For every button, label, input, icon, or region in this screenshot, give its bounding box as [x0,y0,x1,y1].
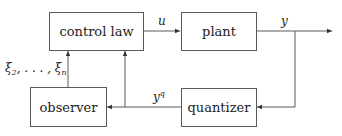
xi-signal-label: ξ2, . . . , ξn [5,62,67,77]
u-signal-label: u [158,15,166,27]
yq-superscript: q [160,89,165,98]
observer-label: observer [40,100,98,115]
block-diagram: control law plant observer quantizer u y… [0,0,342,136]
u-text: u [158,14,166,28]
xi-sub-end: n [61,68,66,77]
yq-base-text: y [153,90,160,104]
y-signal-label: y [281,15,288,27]
control-law-block: control law [49,12,144,51]
observer-block: observer [30,87,107,127]
y-text: y [281,14,288,28]
yq-signal-label: yq [153,90,165,103]
plant-block: plant [181,12,257,51]
plant-label: plant [202,24,236,39]
quantizer-block: quantizer [181,88,257,127]
xi-mid: , . . . , ξ [17,61,62,75]
control-law-label: control law [59,24,133,39]
quantizer-label: quantizer [188,100,251,115]
y-feedback-wire [257,31,295,107]
xi-text: ξ [5,61,12,75]
